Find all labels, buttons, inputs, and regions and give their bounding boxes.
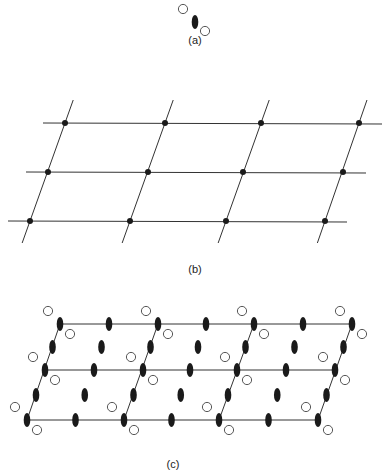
edge-midpoint-axis (106, 317, 113, 331)
lattice-point (340, 169, 346, 175)
edge-midpoint-axis (203, 317, 210, 331)
edge-midpoint-axis (130, 388, 137, 402)
edge-midpoint-axis (33, 388, 40, 402)
object-circle (335, 306, 344, 315)
lattice-point (45, 169, 51, 175)
cell-center-axis (195, 340, 202, 354)
object-circle (178, 4, 187, 13)
lattice-twofold-axis (121, 413, 128, 427)
object-circle (50, 375, 59, 384)
lattice-point (223, 218, 229, 224)
cell-center-axis (274, 388, 281, 402)
lattice-twofold-axis (216, 413, 223, 427)
panel-a-label: (a) (188, 34, 201, 46)
edge-midpoint-axis (168, 413, 175, 427)
cell-center-axis (98, 340, 105, 354)
lattice-twofold-axis (349, 317, 356, 331)
motif-twofold-axis (192, 15, 199, 29)
lattice-point (162, 120, 168, 126)
lattice-twofold-axis (234, 363, 241, 377)
lattice-twofold-axis (155, 317, 162, 331)
edge-midpoint-axis (147, 340, 154, 354)
edge-midpoint-axis (91, 363, 98, 377)
lattice-point (258, 120, 264, 126)
panel-b-label: (b) (188, 263, 201, 275)
lattice-point (240, 169, 246, 175)
lattice-row-line (26, 172, 366, 173)
object-circle (202, 402, 211, 411)
object-circle (65, 329, 74, 338)
lattice-point (127, 218, 133, 224)
cell-center-axis (291, 340, 298, 354)
lattice-row-line (43, 123, 382, 124)
object-circle (323, 425, 332, 434)
cell-center-axis (81, 388, 88, 402)
object-circle (340, 375, 349, 384)
object-circle (200, 26, 209, 35)
lattice-twofold-axis (251, 317, 258, 331)
object-circle (141, 306, 150, 315)
object-circle (237, 306, 246, 315)
edge-midpoint-axis (242, 340, 249, 354)
object-circle (126, 352, 135, 361)
lattice-point (322, 218, 328, 224)
edge-midpoint-axis (283, 363, 290, 377)
crystal-lattice-figure (0, 0, 390, 471)
object-circle (129, 425, 138, 434)
lattice-twofold-axis (332, 363, 339, 377)
lattice-point (62, 120, 68, 126)
lattice-twofold-axis (57, 317, 64, 331)
object-circle (224, 425, 233, 434)
edge-midpoint-axis (340, 340, 347, 354)
edge-midpoint-axis (49, 340, 56, 354)
lattice-twofold-axis (42, 363, 49, 377)
lattice-twofold-axis (315, 413, 322, 427)
object-circle (357, 329, 366, 338)
object-circle (318, 352, 327, 361)
edge-midpoint-axis (265, 413, 272, 427)
panel-c-label: (c) (167, 458, 180, 470)
edge-midpoint-axis (187, 363, 194, 377)
edge-midpoint-axis (300, 317, 307, 331)
object-circle (148, 375, 157, 384)
edge-midpoint-axis (225, 388, 232, 402)
object-circle (10, 402, 19, 411)
object-circle (220, 352, 229, 361)
lattice-point (145, 169, 151, 175)
lattice-twofold-axis (140, 363, 147, 377)
object-circle (32, 425, 41, 434)
lattice-twofold-axis (24, 413, 31, 427)
lattice-point (356, 120, 362, 126)
object-circle (28, 352, 37, 361)
lattice-point (27, 218, 33, 224)
object-circle (107, 402, 116, 411)
object-circle (242, 375, 251, 384)
object-circle (301, 402, 310, 411)
object-circle (163, 329, 172, 338)
edge-midpoint-axis (323, 388, 330, 402)
lattice-row-line (8, 221, 347, 222)
object-circle (259, 329, 268, 338)
edge-midpoint-axis (72, 413, 79, 427)
cell-center-axis (177, 388, 184, 402)
object-circle (43, 306, 52, 315)
